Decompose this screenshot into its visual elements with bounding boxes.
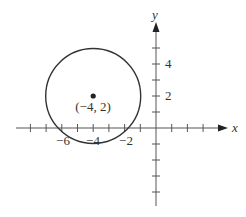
x-axis-arrow-icon [218, 125, 228, 132]
y-axis-arrow-icon [153, 22, 160, 32]
x-tick-label-neg2: −2 [119, 133, 133, 148]
coordinate-plane: (−4, 2) −6 −4 −2 4 2 x y [0, 0, 246, 217]
x-tick-label-neg4: −4 [86, 133, 100, 148]
y-axis-label: y [150, 7, 158, 22]
center-point-label: (−4, 2) [75, 99, 111, 114]
x-axis-label: x [231, 120, 238, 135]
y-tick-label-2: 2 [165, 88, 172, 103]
y-tick-label-4: 4 [165, 56, 172, 71]
x-tick-label-neg6: −6 [56, 133, 70, 148]
center-point [91, 93, 96, 98]
